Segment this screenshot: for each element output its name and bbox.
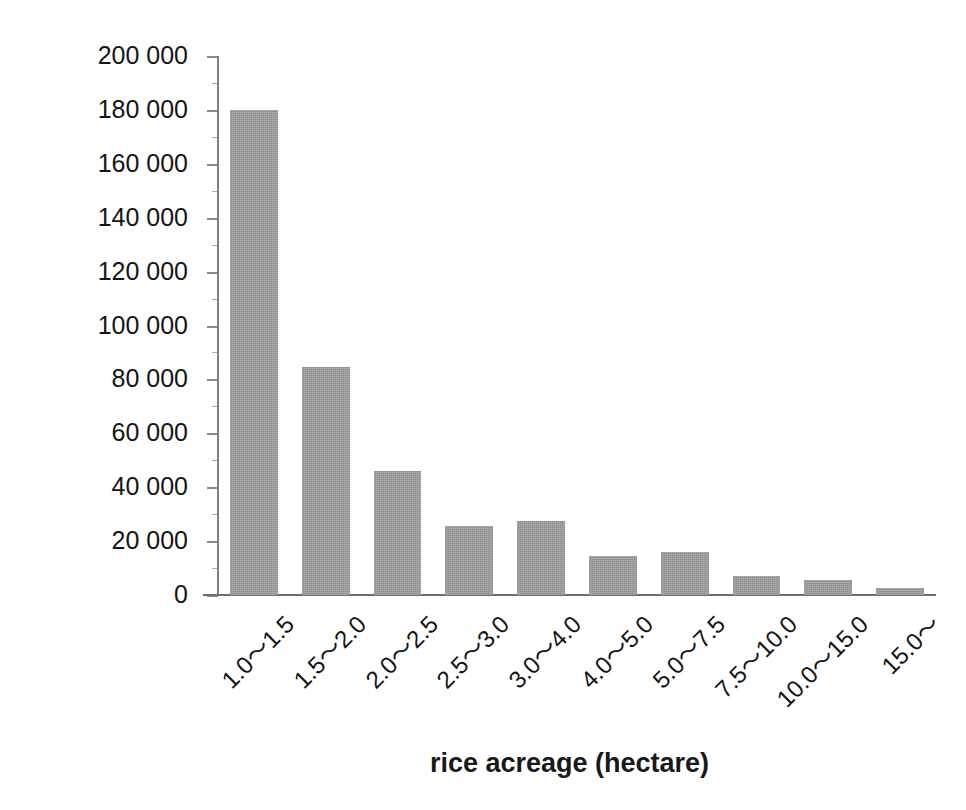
y-axis-tick-label: 40 000 <box>112 474 188 499</box>
y-axis-tick-labels: 020 00040 00060 00080 000100 000120 0001… <box>0 0 188 810</box>
y-axis-tick-label: 100 000 <box>98 313 188 338</box>
y-axis-tick-label: 160 000 <box>98 151 188 176</box>
bar <box>517 521 565 595</box>
x-axis-title: rice acreage (hectare) <box>203 748 936 779</box>
y-axis-tick-label: 180 000 <box>98 97 188 122</box>
bar <box>374 471 422 595</box>
y-axis-tick-label: 80 000 <box>112 366 188 391</box>
bar <box>302 367 350 595</box>
bar <box>230 110 278 595</box>
x-axis-tick-labels: 1.0〜1.51.5〜2.02.0〜2.52.5〜3.03.0〜4.04.0〜5… <box>218 598 936 748</box>
y-axis-tick-label: 0 <box>174 582 188 607</box>
y-axis-tick-label: 120 000 <box>98 259 188 284</box>
bar <box>589 556 637 595</box>
y-axis-tick-label: 20 000 <box>112 528 188 553</box>
y-axis-tick-label: 200 000 <box>98 43 188 68</box>
bar <box>445 526 493 595</box>
bar-chart: number of houses 020 00040 00060 00080 0… <box>0 0 966 810</box>
bar <box>804 580 852 595</box>
bar <box>661 552 709 595</box>
y-axis-tick-label: 60 000 <box>112 420 188 445</box>
bar <box>876 588 924 595</box>
plot-area <box>218 56 936 595</box>
bar <box>733 576 781 595</box>
y-axis-tick-label: 140 000 <box>98 205 188 230</box>
